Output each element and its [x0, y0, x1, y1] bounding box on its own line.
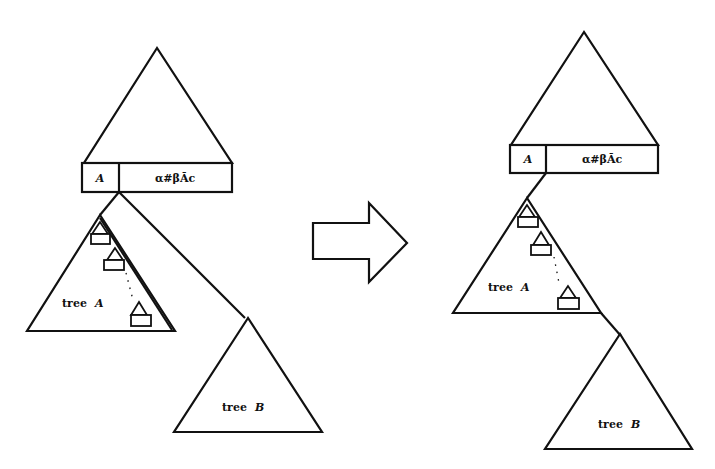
before-top-triangle — [84, 48, 232, 163]
before-node-cell-string: α#βĀc — [155, 172, 196, 185]
after-tree-b-triangle — [545, 334, 692, 449]
diagram-canvas: A α#βĀc tree A tree — [0, 0, 715, 469]
after-node-cell-a: A — [523, 153, 533, 166]
after-top-triangle — [511, 32, 658, 145]
after-edge-to-tree-a — [527, 173, 546, 198]
transform-arrow-icon — [313, 203, 407, 282]
after-edge-to-tree-b — [601, 313, 621, 336]
before-tree-b-triangle — [174, 318, 322, 432]
after-diagram: A α#βĀc tree A tree B — [453, 32, 692, 449]
after-node-cell-string: α#βĀc — [582, 153, 623, 166]
before-edge-to-tree-a — [100, 192, 119, 215]
before-diagram: A α#βĀc tree A tree — [27, 48, 322, 432]
before-node-cell-a: A — [95, 172, 105, 185]
